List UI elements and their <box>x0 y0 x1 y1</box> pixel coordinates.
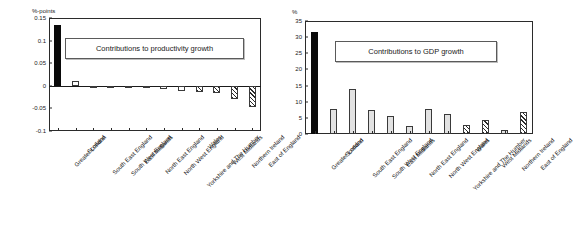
x-axis-tick-mark <box>76 128 77 131</box>
x-axis-tick-mark <box>93 128 94 131</box>
x-axis-tick-mark <box>391 131 392 134</box>
x-axis-tick-mark <box>486 131 487 134</box>
y-axis-tick-mark <box>305 37 308 38</box>
y-axis-tick-label: 0.15 <box>34 15 46 21</box>
bar <box>54 25 61 86</box>
y-axis-tick-label: 15 <box>295 83 302 89</box>
chart-panel-productivity: %-points 0.150.10.050-0.05-0.1 Greater L… <box>0 0 275 225</box>
bar <box>72 81 79 86</box>
x-axis-tick-mark <box>146 128 147 131</box>
y-axis-tick-label: 10 <box>295 99 302 105</box>
x-axis-category-label: East Midlands <box>405 137 436 168</box>
x-axis-tick-mark <box>334 131 335 134</box>
x-axis-category-label: North West England <box>183 134 225 176</box>
y-axis-tick-label: -0.1 <box>36 128 46 134</box>
y-axis-unit-label: %-points <box>32 8 55 14</box>
chart-title-box: Contributions to productivity growth <box>65 38 244 59</box>
x-axis-category-label: North East England <box>428 137 469 178</box>
chart-panel-gdp: % 05101520253035 Greater LondonScotlandS… <box>275 0 551 225</box>
x-axis-tick-mark <box>182 128 183 131</box>
y-axis-tick-label: 20 <box>295 66 302 72</box>
x-axis-tick-mark <box>448 131 449 134</box>
y-axis-tick-mark <box>305 69 308 70</box>
x-axis-category-label: North East England <box>164 134 205 175</box>
y-axis-tick-mark <box>305 21 308 22</box>
x-axis-category-label: South East England <box>112 134 154 176</box>
x-axis-category-label: South West England <box>390 137 433 180</box>
x-axis-category-label: East of England <box>539 137 573 171</box>
y-axis-tick-label: 30 <box>295 34 302 40</box>
bar-series <box>305 21 533 134</box>
x-axis-category-label: Greater London <box>73 134 107 168</box>
y-axis-tick-mark <box>49 108 52 109</box>
x-axis-tick-mark <box>524 131 525 134</box>
x-axis-category-label: Scotland <box>343 137 364 158</box>
y-axis-tick-mark <box>305 53 308 54</box>
bar <box>143 86 150 88</box>
bar <box>311 32 319 134</box>
bar <box>213 86 220 93</box>
bar-series <box>49 18 261 131</box>
y-axis-tick-label: 0 <box>43 83 46 89</box>
y-axis-unit-label: % <box>292 9 297 15</box>
x-axis-category-label: South West England <box>130 134 173 177</box>
x-axis-category-label: Northern Ireland <box>520 137 555 172</box>
y-axis-tick-label: 25 <box>295 50 302 56</box>
x-axis-category-label: East Midlands <box>143 134 174 165</box>
x-axis-tick-mark <box>372 131 373 134</box>
bar <box>349 89 357 134</box>
chart-title-text: Contributions to productivity growth <box>96 44 213 53</box>
x-axis-tick-mark <box>467 131 468 134</box>
x-axis-category-label: Greater London <box>330 137 364 171</box>
x-axis-category-label: Scotland <box>85 134 106 155</box>
x-axis-category-label: North West England <box>447 137 489 179</box>
x-axis-tick-mark <box>199 128 200 131</box>
bar <box>160 86 167 89</box>
y-axis-tick-label: 0.1 <box>38 38 46 44</box>
y-axis-tick-mark <box>49 63 52 64</box>
x-axis-tick-mark <box>111 128 112 131</box>
x-axis-tick-mark <box>505 131 506 134</box>
x-axis-tick-mark <box>252 128 253 131</box>
y-axis-tick-mark <box>49 18 52 19</box>
y-axis-tick-mark <box>49 85 52 86</box>
y-axis-tick-mark <box>305 117 308 118</box>
x-axis-tick-mark <box>353 131 354 134</box>
chart-title-text: Contributions to GDP growth <box>368 47 463 56</box>
y-axis-tick-mark <box>49 131 52 132</box>
bar <box>107 86 114 88</box>
x-axis-tick-mark <box>164 128 165 131</box>
y-axis-tick-label: -0.05 <box>32 105 46 111</box>
bar <box>249 86 256 107</box>
y-axis-tick-mark <box>49 40 52 41</box>
bar <box>231 86 238 99</box>
bar <box>178 86 185 91</box>
y-axis-tick-label: 0 <box>299 131 302 137</box>
x-axis-category-label: Wales <box>474 137 490 153</box>
x-axis-category-label: Yorkshire and The Humber <box>205 134 260 189</box>
x-axis-tick-mark <box>217 128 218 131</box>
y-axis-tick-mark <box>305 101 308 102</box>
y-axis-tick-label: 35 <box>295 18 302 24</box>
x-axis-tick-mark <box>58 128 59 131</box>
y-axis-tick-mark <box>305 85 308 86</box>
y-axis-tick-mark <box>305 134 308 135</box>
x-axis-category-label: Yorkshire and The Humber <box>471 137 526 192</box>
x-axis-tick-mark <box>129 128 130 131</box>
chart-title-box: Contributions to GDP growth <box>335 41 497 62</box>
x-axis-category-label: West Midlands <box>500 137 532 169</box>
bar <box>196 86 203 92</box>
x-axis-tick-mark <box>235 128 236 131</box>
plot-area: 05101520253035 <box>305 21 533 134</box>
x-axis-category-label: Wales <box>207 134 223 150</box>
x-axis-category-label: West Midlands <box>231 134 263 166</box>
x-axis-category-label: South East England <box>371 137 413 179</box>
y-axis-tick-label: 5 <box>299 115 302 121</box>
x-axis-tick-mark <box>315 131 316 134</box>
x-axis-tick-mark <box>429 131 430 134</box>
x-axis-tick-mark <box>410 131 411 134</box>
bar <box>90 86 97 88</box>
plot-area: 0.150.10.050-0.05-0.1 <box>49 18 261 131</box>
y-axis-tick-label: 0.05 <box>34 60 46 66</box>
